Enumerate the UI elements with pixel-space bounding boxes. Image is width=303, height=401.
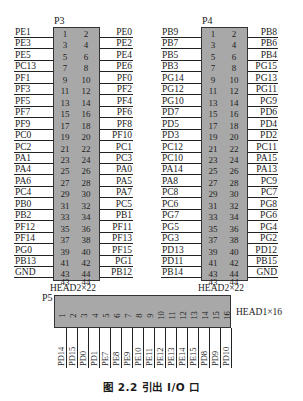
p3-right-signal: PB1 <box>100 210 133 221</box>
p4-left-signal: PA8 <box>161 176 201 187</box>
p5-pin-number: 7 <box>124 309 133 323</box>
p3-right-signal: PC3 <box>100 153 133 164</box>
p5-pin-number: 13 <box>190 309 199 323</box>
p3-pin-number: 23 <box>59 156 71 165</box>
p4-pin-number: 17 <box>207 122 219 131</box>
p4-pin-number: 12 <box>228 87 240 96</box>
p4-left-signal: PG14 <box>161 73 201 84</box>
p3-pin-number: 12 <box>80 87 92 96</box>
p5-signal: PE13 <box>167 348 176 366</box>
p4-pin-number: 40 <box>228 248 240 257</box>
p4-right-signal: PD12 <box>248 245 278 256</box>
p4-pin-number: 41 <box>207 259 219 268</box>
p3-pin-number: 24 <box>80 156 92 165</box>
p3-right-signal: PA5 <box>100 176 133 187</box>
p3-right-signal: PE4 <box>100 50 133 61</box>
p3-right-signal: PG1 <box>100 256 133 267</box>
p3-pin-number: 18 <box>80 122 92 131</box>
p3-pin-number: 7 <box>59 64 71 73</box>
p5-pin-number: 15 <box>212 309 221 323</box>
p3-left-signal: GND <box>14 267 53 278</box>
p3-pin-number: 22 <box>80 145 92 154</box>
p3-left-signal: PA1 <box>14 153 53 164</box>
p4-pin-number: 27 <box>207 179 219 188</box>
p4-pin-number: 8 <box>228 64 240 73</box>
p3-pin-number: 35 <box>59 225 71 234</box>
p5-signal: PD8 <box>200 351 209 366</box>
p3-pin-number: 6 <box>80 53 92 62</box>
p3-right-signal: PF8 <box>100 119 133 130</box>
p5-signal: PD15 <box>68 347 77 366</box>
p3-left-signal: PE1 <box>14 27 53 38</box>
p3-pin-number: 11 <box>59 87 71 96</box>
p4-left-signal: PC10 <box>161 153 201 164</box>
p4-right-signal: PB8 <box>248 27 278 38</box>
p3-pin-number: 13 <box>59 99 71 108</box>
p4-left-signal: PG12 <box>161 84 201 95</box>
p5-signal: PD14 <box>57 347 66 366</box>
p4-right-signal: PG4 <box>248 222 278 233</box>
p4-pin-number: 5 <box>207 53 219 62</box>
p4-right-signal: PB6 <box>248 38 278 49</box>
p4-left-signal: PC12 <box>161 142 201 153</box>
p4-pin-number: 24 <box>228 156 240 165</box>
p3-left-signal: PC0 <box>14 130 53 141</box>
p4-pin-number: 25 <box>207 167 219 176</box>
p4-right-signal: PG11 <box>248 84 278 95</box>
p5-signal: PD0 <box>79 351 88 366</box>
p3-pin-number: 31 <box>59 202 71 211</box>
p3-right-signal: PF6 <box>100 107 133 118</box>
p5-type-label: HEAD1×16 <box>236 307 282 317</box>
p3-left-signal: PC13 <box>14 61 53 72</box>
p3-right-signal: PE0 <box>100 27 133 38</box>
p4-right-signal: PC11 <box>248 142 278 153</box>
p3-left-signal: PB0 <box>14 199 53 210</box>
p4-left-signal: PC8 <box>161 187 201 198</box>
p3-pin-number: 29 <box>59 190 71 199</box>
p4-pin-number: 43 <box>207 278 219 287</box>
p5-signal: PD10 <box>222 347 231 366</box>
p4-right-signal: PG9 <box>248 96 278 107</box>
p4-right-signal: GND <box>248 267 278 278</box>
p3-left-signal: PA6 <box>14 176 53 187</box>
p3-right-signal: PA7 <box>100 187 133 198</box>
p5-pin-number: 12 <box>179 309 188 323</box>
p4-left-signal: PB9 <box>161 27 201 38</box>
p3-right-signal: PF10 <box>100 130 133 141</box>
p3-left-signal: PF7 <box>14 107 53 118</box>
p5-signal: PE9 <box>123 352 132 366</box>
p4-pin-number: 1 <box>207 30 219 39</box>
p3-pin-number: 2 <box>80 30 92 39</box>
p5-pin-lead <box>231 328 232 368</box>
p4-pin-number: 38 <box>228 236 240 245</box>
p3-left-signal: PG0 <box>14 245 53 256</box>
p3-right-signal: PC5 <box>100 199 133 210</box>
p3-right-signal: PC1 <box>100 142 133 153</box>
p3-left-signal: PF9 <box>14 119 53 130</box>
p3-pin-number: 40 <box>80 248 92 257</box>
p3-pin-number: 27 <box>59 179 71 188</box>
figure-caption: 图 2.2 引出 I/O 口 <box>0 379 303 394</box>
p4-pin-number: 26 <box>228 167 240 176</box>
p5-pin-number: 11 <box>168 309 177 323</box>
p3-pin-number: 33 <box>59 213 71 222</box>
p4-left-signal: PD13 <box>161 245 201 256</box>
p4-pin-number: 10 <box>228 76 240 85</box>
p4-left-signal: PB3 <box>161 61 201 72</box>
p3-left-signal: PC4 <box>14 187 53 198</box>
p4-right-signal: PG6 <box>248 210 278 221</box>
p4-pin-number: 2 <box>228 30 240 39</box>
p3-pin-number: 26 <box>80 167 92 176</box>
p3-left-signal: PF1 <box>14 73 53 84</box>
p4-pin-number: 4 <box>228 41 240 50</box>
p3-pin-number: 34 <box>80 213 92 222</box>
p5-signal: PE8 <box>112 352 121 366</box>
p3-left-signal: PB13 <box>14 256 53 267</box>
p3-pin-number: 9 <box>59 76 71 85</box>
p3-pin-number: 4 <box>80 41 92 50</box>
p5-signal: PE15 <box>189 348 198 366</box>
p5-pin-number: 5 <box>102 309 111 323</box>
p4-left-signal: PG10 <box>161 96 201 107</box>
p3-right-signal: PB12 <box>100 267 133 278</box>
p3-left-signal: PC2 <box>14 142 53 153</box>
